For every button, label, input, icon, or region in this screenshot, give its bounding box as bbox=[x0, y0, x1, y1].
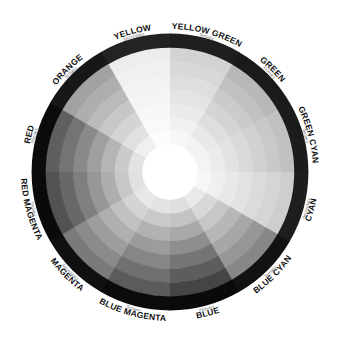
color-wheel: YELLOWSecondaryYELLOW GREENTertiaryGREEN… bbox=[0, 0, 340, 348]
wheel-center bbox=[154, 156, 186, 188]
